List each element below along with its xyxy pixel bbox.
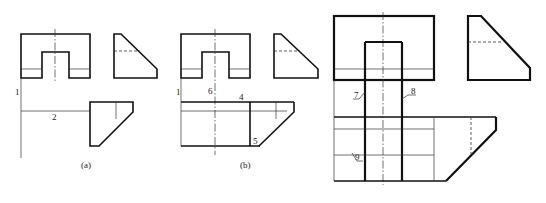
panel-b-front-view [181,34,250,78]
panel-a: 1 2 (a) [15,29,157,170]
label-1: 1 [176,87,181,97]
panel-b: 1 6 4 5 (b) [176,29,318,170]
label-2: 2 [52,112,57,122]
caption-a: (a) [81,160,91,170]
panel-a-top-view [90,102,133,146]
panel-c: 7 8 9 [334,12,530,185]
label-8: 8 [411,86,416,96]
panel-a-front-view [21,34,90,78]
label-1: 1 [15,87,20,97]
panel-b-side-view [274,34,318,78]
orthographic-projection-figure: 1 2 (a) 1 6 4 5 (b) [0,0,546,203]
label-7: 7 [354,90,359,100]
panel-a-side-view [114,34,157,78]
caption-b: (b) [240,160,251,170]
panel-c-side-view [468,16,530,80]
label-4: 4 [239,92,244,102]
label-9: 9 [355,152,360,162]
label-5: 5 [253,136,258,146]
label-6: 6 [208,86,213,96]
